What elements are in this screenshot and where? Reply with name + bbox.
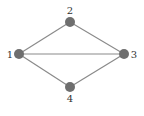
node-1 bbox=[14, 49, 24, 59]
graph-diagram: 1234 bbox=[0, 0, 144, 116]
node-label-2: 2 bbox=[67, 5, 73, 16]
node-label-3: 3 bbox=[131, 49, 137, 60]
edge-4-3 bbox=[70, 54, 124, 87]
node-3 bbox=[119, 49, 129, 59]
node-label-1: 1 bbox=[7, 49, 13, 60]
node-label-4: 4 bbox=[67, 93, 73, 104]
edge-2-3 bbox=[70, 22, 124, 54]
edges bbox=[19, 22, 124, 87]
edge-1-2 bbox=[19, 22, 70, 54]
node-2 bbox=[65, 17, 75, 27]
edge-1-4 bbox=[19, 54, 70, 87]
node-4 bbox=[65, 82, 75, 92]
